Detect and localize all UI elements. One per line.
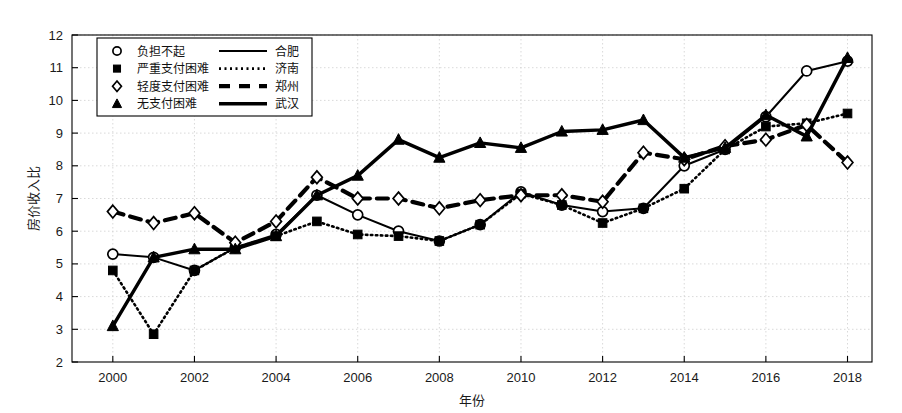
y-tick-label: 7 xyxy=(56,191,63,206)
marker-diamond xyxy=(352,192,363,205)
marker-square xyxy=(394,232,403,241)
legend-series-label: 武汉 xyxy=(275,97,299,111)
x-tick-label: 2010 xyxy=(507,370,536,385)
marker-diamond xyxy=(760,133,771,146)
x-tick-label: 2014 xyxy=(670,370,699,385)
legend-marker-label: 负担不起 xyxy=(137,45,185,59)
marker-diamond xyxy=(393,192,404,205)
marker-square xyxy=(190,266,199,275)
y-tick-label: 3 xyxy=(56,322,63,337)
legend-series-label: 郑州 xyxy=(275,79,299,94)
marker-square xyxy=(680,184,689,193)
y-tick-label: 5 xyxy=(56,256,63,271)
legend-marker-label: 严重支付困难 xyxy=(137,62,209,76)
line-chart: 2345678910111220002002200420062008201020… xyxy=(0,0,902,413)
marker-diamond xyxy=(475,194,486,207)
x-tick-label: 2000 xyxy=(98,370,127,385)
marker-diamond xyxy=(556,189,567,202)
x-tick-label: 2006 xyxy=(343,370,372,385)
marker-square xyxy=(476,220,485,229)
marker-square xyxy=(113,65,120,72)
marker-triangle xyxy=(393,134,404,145)
marker-square xyxy=(762,122,771,131)
marker-circle xyxy=(108,249,118,259)
marker-square xyxy=(639,204,648,213)
marker-square xyxy=(313,217,322,226)
marker-square xyxy=(353,230,362,239)
marker-diamond xyxy=(434,202,445,215)
marker-square xyxy=(109,266,118,275)
y-tick-label: 11 xyxy=(50,60,64,75)
x-tick-label: 2004 xyxy=(262,370,291,385)
x-tick-label: 2012 xyxy=(588,370,617,385)
marker-diamond xyxy=(148,217,159,230)
y-tick-label: 10 xyxy=(49,93,63,108)
marker-diamond xyxy=(107,205,118,218)
y-tick-label: 4 xyxy=(56,289,63,304)
x-tick-label: 2002 xyxy=(180,370,209,385)
marker-square xyxy=(598,219,607,228)
chart-container: 2345678910111220002002200420062008201020… xyxy=(0,0,902,413)
marker-square xyxy=(149,330,158,339)
x-axis-title: 年份 xyxy=(459,393,485,408)
chart-legend: 负担不起合肥严重支付困难济南轻度支付困难郑州无支付困难武汉 xyxy=(97,38,312,116)
y-tick-label: 8 xyxy=(56,158,63,173)
x-tick-label: 2008 xyxy=(425,370,454,385)
marker-square xyxy=(843,109,852,118)
legend-marker-label: 轻度支付困难 xyxy=(137,79,209,94)
marker-circle xyxy=(802,66,812,76)
legend-series-label: 济南 xyxy=(275,61,299,76)
y-tick-label: 9 xyxy=(56,126,63,141)
y-tick-label: 6 xyxy=(56,224,63,239)
x-tick-label: 2016 xyxy=(751,370,780,385)
legend-series-label: 合肥 xyxy=(275,44,299,59)
marker-circle xyxy=(113,47,121,55)
legend-marker-label: 无支付困难 xyxy=(137,97,197,111)
x-tick-label: 2018 xyxy=(833,370,862,385)
y-axis-title: 房价收入比 xyxy=(26,166,41,231)
y-tick-label: 12 xyxy=(49,28,63,43)
marker-square xyxy=(435,237,444,246)
y-tick-label: 2 xyxy=(56,355,63,370)
marker-circle xyxy=(353,210,363,220)
